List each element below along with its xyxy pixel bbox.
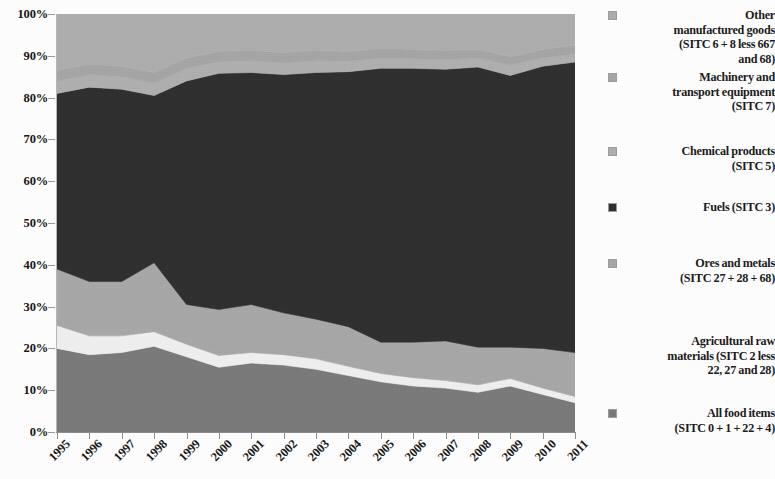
y-axis-tick [48,56,55,57]
legend-item-chemical-products[interactable]: Chemical products(SITC 5) [604,144,775,173]
y-axis-tick-label: 20% [24,341,48,356]
x-axis-tick-label: 1997 [111,437,139,465]
y-axis-tick-label: 50% [24,216,48,231]
y-axis-tick-label: 30% [24,299,48,314]
legend-item-all-food-items[interactable]: All food items(SITC 0 + 1 + 22 + 4) [604,406,775,435]
legend-item-machinery-transport-equipment[interactable]: Machinery andtransport equipment(SITC 7) [604,70,775,114]
y-axis-tick [48,348,55,349]
stacked-area-chart-figure: 0%10%20%30%40%50%60%70%80%90%100% 199519… [0,0,775,479]
plot-area [57,14,575,432]
legend-swatch-icon [608,147,617,156]
y-axis-tick-label: 60% [24,174,48,189]
legend-item-label: Agricultural rawmaterials (SITC 2 less22… [604,334,775,378]
y-axis-tick-label: 90% [24,48,48,63]
y-axis-tick [48,390,55,391]
legend-item-label: Fuels (SITC 3) [604,200,775,215]
x-axis-tick-label: 2007 [434,437,462,465]
x-axis-tick-label: 2011 [564,437,591,464]
legend-swatch-icon [608,73,617,82]
x-axis-tick-label: 2001 [240,437,268,465]
y-axis-tick-label: 40% [24,257,48,272]
y-axis-tick [48,265,55,266]
legend-item-agricultural-raw-materials[interactable]: Agricultural rawmaterials (SITC 2 less22… [604,334,775,378]
legend-item-label: Chemical products(SITC 5) [604,144,775,173]
x-axis-tick-label: 1996 [78,437,106,465]
legend-item-label: Machinery andtransport equipment(SITC 7) [604,70,775,114]
legend-swatch-icon [608,409,617,418]
chart-legend: Othermanufactured goods(SITC 6 + 8 less … [604,4,775,474]
y-axis-tick [48,98,55,99]
x-axis-tick-label: 2004 [337,437,365,465]
x-axis-tick-label: 2002 [273,437,301,465]
x-axis-tick-label: 1995 [46,437,74,465]
legend-swatch-icon [608,203,617,212]
y-axis-tick [48,139,55,140]
y-axis-tick-label: 100% [18,7,48,22]
y-axis-tick [48,432,55,433]
x-axis-tick-label: 2009 [499,437,527,465]
y-axis-tick [48,14,55,15]
legend-item-other-manufactured-goods[interactable]: Othermanufactured goods(SITC 6 + 8 less … [604,8,775,66]
x-axis-tick-label: 2005 [370,437,398,465]
legend-item-fuels[interactable]: Fuels (SITC 3) [604,200,775,215]
y-axis-tick-label: 70% [24,132,48,147]
legend-item-label: Ores and metals(SITC 27 + 28 + 68) [604,256,775,285]
y-axis-tick-label: 10% [24,383,48,398]
legend-item-label: Othermanufactured goods(SITC 6 + 8 less … [604,8,775,66]
legend-swatch-icon [608,259,617,268]
x-axis-tick-label: 1998 [143,437,171,465]
x-axis-tick-label: 2008 [467,437,495,465]
y-axis-tick [48,307,55,308]
legend-item-ores-and-metals[interactable]: Ores and metals(SITC 27 + 28 + 68) [604,256,775,285]
x-axis-tick-label: 2010 [532,437,560,465]
x-axis-tick-label: 1999 [175,437,203,465]
legend-swatch-icon [608,11,617,20]
legend-item-label: All food items(SITC 0 + 1 + 22 + 4) [604,406,775,435]
y-axis-tick [48,223,55,224]
x-axis-tick-label: 2000 [208,437,236,465]
area-series-group [57,14,575,432]
y-axis-tick-label: 80% [24,90,48,105]
x-axis-tick-label: 2003 [305,437,333,465]
x-axis-tick-label: 2006 [402,437,430,465]
y-axis: 0%10%20%30%40%50%60%70%80%90%100% [0,0,52,440]
y-axis-tick [48,181,55,182]
